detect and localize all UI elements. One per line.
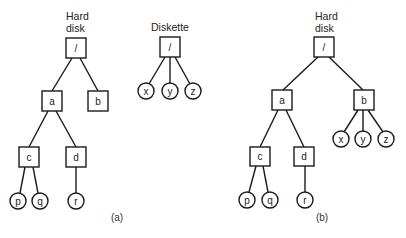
edge-a-c [29, 111, 48, 147]
svg-text:a: a [279, 95, 285, 106]
svg-text:p: p [15, 196, 21, 207]
panel-b: Hard disk / a b c d [239, 10, 394, 223]
edge-a-d [56, 111, 76, 147]
svg-text:q: q [267, 195, 273, 206]
svg-text:x: x [144, 86, 149, 97]
svg-text:y: y [168, 86, 173, 97]
file-z-b: z [378, 131, 394, 147]
edge-root-a [52, 58, 72, 91]
hard-disk-label-line1: Hard [66, 10, 89, 22]
file-r-b: r [297, 192, 313, 208]
file-q: q [32, 193, 48, 209]
diskette-label: Diskette [151, 21, 189, 33]
file-z: z [185, 83, 201, 99]
node-b: b [88, 91, 108, 111]
node-c: c [19, 147, 39, 167]
svg-text:q: q [37, 196, 43, 207]
edge-c-q [33, 167, 38, 193]
node-root-hard-disk-b: / [314, 37, 334, 57]
node-root-diskette: / [160, 37, 180, 57]
file-r: r [68, 193, 84, 209]
hard-disk-label-line2-b: disk [315, 22, 334, 34]
file-q-b: q [262, 192, 278, 208]
svg-text:d: d [301, 151, 307, 162]
svg-text:d: d [73, 152, 79, 163]
node-b-b: b [354, 90, 374, 110]
file-p: p [10, 193, 26, 209]
node-c-b: c [250, 147, 270, 166]
edge-root-b-b [329, 57, 363, 90]
svg-text:b: b [361, 95, 367, 106]
hard-disk-label-line2: disk [66, 22, 85, 34]
edge-diskette-x [149, 57, 165, 84]
edge-c-p-b [249, 166, 256, 192]
edge-a-c-b [260, 110, 278, 147]
svg-text:a: a [49, 96, 55, 107]
svg-text:y: y [361, 134, 366, 145]
svg-text:z: z [384, 134, 389, 145]
hard-disk-label-line1-b: Hard [315, 10, 338, 22]
svg-text:c: c [27, 152, 32, 163]
caption-b: (b) [316, 212, 328, 223]
edge-a-d-b [286, 110, 304, 147]
edge-c-q-b [263, 166, 268, 192]
svg-text:/: / [169, 42, 172, 53]
svg-text:c: c [258, 151, 263, 162]
edge-b-z [368, 110, 383, 132]
node-d: d [66, 147, 86, 167]
file-y-b: y [355, 131, 371, 147]
svg-text:/: / [75, 43, 78, 54]
edge-c-p [20, 167, 25, 193]
file-x-b: x [333, 131, 349, 147]
panel-a: Hard disk / a b c d [10, 10, 201, 223]
node-root-hard-disk: / [66, 38, 86, 58]
svg-text:p: p [244, 195, 250, 206]
file-x: x [138, 83, 154, 99]
file-y: y [162, 83, 178, 99]
edge-b-x [344, 110, 358, 132]
svg-text:/: / [323, 42, 326, 53]
caption-a: (a) [111, 212, 123, 223]
svg-text:b: b [95, 96, 101, 107]
node-a: a [42, 91, 62, 111]
edge-root-a-b [283, 57, 318, 90]
file-p-b: p [239, 192, 255, 208]
edge-diskette-z [175, 57, 190, 84]
node-d-b: d [294, 147, 314, 166]
svg-text:z: z [191, 86, 196, 97]
file-tree-diagram: Hard disk / a b c d [0, 0, 406, 238]
svg-text:x: x [339, 134, 344, 145]
node-a-b: a [272, 90, 292, 110]
edge-root-b [80, 58, 98, 91]
